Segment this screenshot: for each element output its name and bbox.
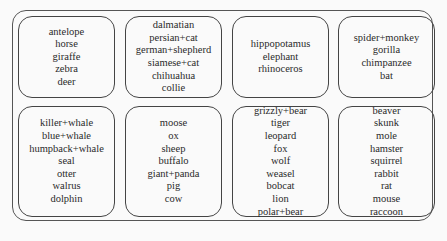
cluster-item: killer+whale: [40, 117, 93, 130]
cluster-item: mouse: [373, 193, 400, 206]
cluster-item: dolphin: [50, 193, 82, 206]
cluster-item: zebra: [55, 63, 78, 76]
cluster-item: pig: [167, 180, 180, 193]
cluster-item: squirrel: [370, 155, 402, 168]
cluster-item: bat: [380, 70, 393, 83]
cluster-item: rhinoceros: [258, 63, 302, 76]
cluster-item: lion: [272, 193, 288, 206]
cluster-item: skunk: [374, 117, 399, 130]
cluster-item: antelope: [49, 26, 85, 39]
cluster-item: beaver: [373, 105, 401, 118]
cluster-box: dalmatianpersian+catgerman+shepherdsiame…: [125, 16, 222, 98]
cluster-item: moose: [160, 117, 187, 130]
cluster-item: elephant: [263, 51, 299, 64]
cluster-item: buffalo: [158, 155, 188, 168]
cluster-box: antelopehorsegiraffezebradeer: [18, 16, 115, 98]
cluster-item: horse: [55, 38, 78, 51]
cluster-item: seal: [58, 155, 74, 168]
cluster-item: rat: [381, 180, 392, 193]
cluster-item: humpback+whale: [29, 143, 104, 156]
cluster-item: rabbit: [374, 168, 399, 181]
cluster-item: cow: [165, 193, 183, 206]
cluster-item: sheep: [162, 143, 186, 156]
cluster-item: german+shepherd: [136, 44, 211, 57]
cluster-item: chimpanzee: [361, 57, 411, 70]
cluster-item: polar+bear: [258, 206, 304, 219]
cluster-item: giant+panda: [148, 168, 200, 181]
cluster-item: deer: [57, 76, 75, 89]
cluster-item: blue+whale: [42, 130, 91, 143]
cluster-item: persian+cat: [149, 32, 197, 45]
cluster-item: wolf: [271, 155, 290, 168]
cluster-item: ox: [168, 130, 179, 143]
cluster-item: hippopotamus: [251, 38, 311, 51]
cluster-item: otter: [57, 168, 76, 181]
cluster-item: siamese+cat: [148, 57, 199, 70]
cluster-item: collie: [162, 82, 185, 95]
cluster-box: spider+monkeygorillachimpanzeebat: [338, 16, 435, 98]
cluster-item: walrus: [53, 180, 81, 193]
cluster-item: chihuahua: [152, 70, 195, 83]
cluster-box: beaverskunkmolehamstersquirrelrabbitratm…: [338, 106, 435, 217]
cluster-item: tiger: [271, 117, 290, 130]
cluster-item: mole: [376, 130, 397, 143]
cluster-item: dalmatian: [153, 19, 194, 32]
cluster-item: weasel: [266, 168, 295, 181]
cluster-item: leopard: [265, 130, 297, 143]
cluster-item: spider+monkey: [354, 32, 419, 45]
cluster-box: hippopotamuselephantrhinoceros: [232, 16, 329, 98]
cluster-box: mooseoxsheepbuffalogiant+pandapigcow: [125, 106, 222, 217]
cluster-box: grizzly+beartigerleopardfoxwolfweaselbob…: [232, 106, 329, 217]
figure-caption: [0, 226, 447, 237]
cluster-item: raccoon: [370, 206, 403, 219]
cluster-item: fox: [274, 143, 288, 156]
cluster-box: killer+whaleblue+whalehumpback+whaleseal…: [18, 106, 115, 217]
cluster-item: giraffe: [53, 51, 81, 64]
cluster-item: gorilla: [373, 44, 400, 57]
cluster-item: bobcat: [267, 180, 295, 193]
cluster-item: hamster: [370, 143, 403, 156]
cluster-item: grizzly+bear: [254, 105, 307, 118]
